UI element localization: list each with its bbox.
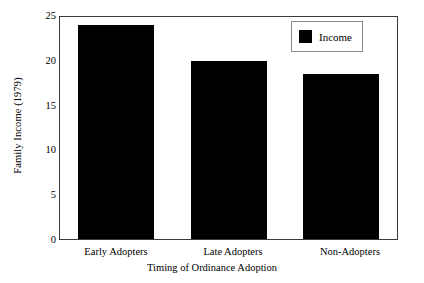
x-tick-label-early-adopters: Early Adopters [84, 246, 147, 257]
legend[interactable]: Income [291, 21, 363, 52]
y-tick-label-5: 5 [32, 190, 56, 200]
x-axis-title: Timing of Ordinance Adoption [0, 262, 424, 273]
y-axis-title-text: Family Income (1979) [12, 77, 23, 173]
legend-swatch-income [299, 30, 312, 43]
bar-early-adopters[interactable] [78, 25, 154, 239]
y-tick-label-15: 15 [32, 101, 56, 111]
x-tick-label-non-adopters: Non-Adopters [320, 246, 380, 257]
y-tick-label-20: 20 [32, 56, 56, 66]
x-tick-label-late-adopters: Late Adopters [203, 246, 262, 257]
y-axis-tick-labels: 25 20 15 10 5 0 [28, 0, 56, 283]
y-tick-label-0: 0 [32, 235, 56, 245]
bar-non-adopters[interactable] [303, 74, 379, 239]
y-tick-label-25: 25 [32, 11, 56, 21]
y-axis-title: Family Income (1979) [6, 0, 28, 250]
y-tick-label-10: 10 [32, 145, 56, 155]
bar-late-adopters[interactable] [191, 61, 267, 239]
legend-label-income: Income [319, 31, 352, 43]
plot-area: Income [59, 16, 398, 240]
bar-chart-figure: Family Income (1979) 25 20 15 10 5 0 Inc… [0, 0, 424, 283]
